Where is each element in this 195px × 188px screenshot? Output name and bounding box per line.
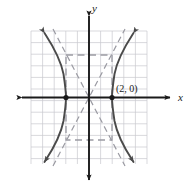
y-axis-label: y [91,2,97,14]
vertex-label-right: (2, 0) [116,83,138,95]
x-axis-label: x [177,91,183,103]
hyperbola-graph-figure: (2, 0) x y [0,0,195,188]
vertex-point-right [109,95,114,100]
vertex-point-left [63,95,68,100]
coordinate-plane-svg: (2, 0) x y [0,0,195,188]
